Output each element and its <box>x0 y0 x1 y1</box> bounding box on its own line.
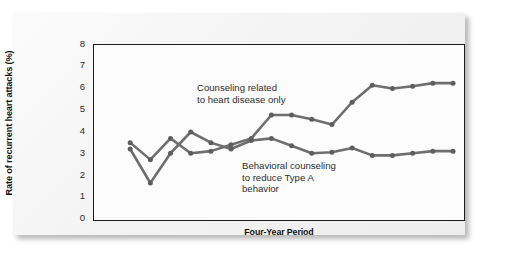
series-group-1 <box>128 81 456 163</box>
data-point <box>128 147 133 152</box>
data-point <box>451 149 456 154</box>
data-point <box>390 153 395 158</box>
data-point <box>309 151 314 156</box>
data-point <box>329 122 334 127</box>
data-point <box>168 136 173 141</box>
x-axis-title: Four-Year Period <box>93 227 465 237</box>
y-tick-label-4: 4 <box>69 126 85 136</box>
data-point <box>350 145 355 150</box>
data-point <box>410 84 415 89</box>
y-tick-label-1: 1 <box>69 191 85 201</box>
data-point <box>430 81 435 86</box>
y-axis-title: Rate of recurrent heart attacks (%) <box>4 28 18 218</box>
screenshot-root: Rate of recurrent heart attacks (%) 8 7 … <box>0 0 507 260</box>
data-point <box>289 113 294 118</box>
data-point <box>208 149 213 154</box>
data-point <box>390 86 395 91</box>
data-point <box>370 153 375 158</box>
data-point <box>269 136 274 141</box>
data-point <box>148 181 153 186</box>
data-point <box>148 157 153 162</box>
data-point <box>410 151 415 156</box>
data-point <box>430 149 435 154</box>
series-label-behavioral-counseling: Behavioral counseling to reduce Type A b… <box>242 160 336 195</box>
y-tick-label-7: 7 <box>69 60 85 70</box>
data-point <box>451 81 456 86</box>
data-point <box>289 143 294 148</box>
data-point <box>168 151 173 156</box>
figure-card: Rate of recurrent heart attacks (%) 8 7 … <box>13 13 465 235</box>
data-point <box>350 100 355 105</box>
data-point <box>249 138 254 143</box>
data-point <box>208 140 213 145</box>
data-point <box>309 117 314 122</box>
data-point <box>188 130 193 135</box>
plot-area: Counseling related to heart disease only… <box>93 44 465 221</box>
y-tick-label-8: 8 <box>69 39 85 49</box>
data-point <box>370 83 375 88</box>
y-tick-label-6: 6 <box>69 82 85 92</box>
data-point <box>329 150 334 155</box>
y-tick-label-0: 0 <box>69 213 85 223</box>
y-tick-label-3: 3 <box>69 148 85 158</box>
y-tick-label-5: 5 <box>69 104 85 114</box>
series-label-counseling-heart-disease: Counseling related to heart disease only <box>197 82 286 105</box>
data-point <box>269 113 274 118</box>
data-point <box>128 140 133 145</box>
y-tick-label-2: 2 <box>69 170 85 180</box>
data-point <box>229 147 234 152</box>
data-point <box>188 151 193 156</box>
